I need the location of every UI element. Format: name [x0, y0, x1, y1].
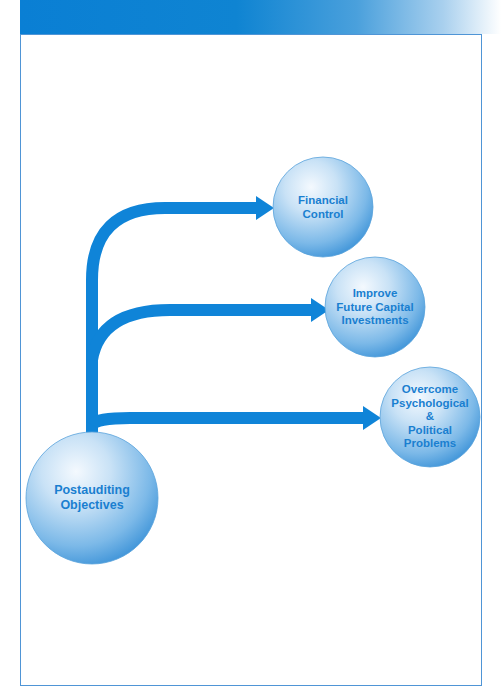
- label-overcome-problems: Overcome Psychological & Political Probl…: [391, 383, 468, 451]
- label-postauditing-objectives: Postauditing Objectives: [54, 483, 130, 513]
- arrow-improve-investments: [92, 310, 313, 360]
- arrowhead-icon: [256, 196, 274, 220]
- label-financial-control: Financial Control: [298, 194, 348, 221]
- label-improve-investments: Improve Future Capital Investments: [336, 287, 413, 328]
- arrow-overcome-problems: [92, 418, 365, 425]
- arrowhead-icon: [363, 406, 381, 430]
- postauditing-diagram: [0, 0, 501, 700]
